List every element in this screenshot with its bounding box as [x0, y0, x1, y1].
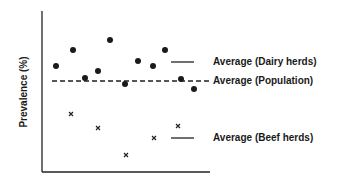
legend-dairy: Average (Dairy herds) [213, 56, 317, 67]
dairy-point [53, 63, 59, 69]
beef-point [69, 112, 73, 116]
dairy-point [162, 47, 168, 53]
beef-points [69, 112, 180, 157]
dairy-point [70, 47, 76, 53]
y-axis-label: Prevalence (%) [18, 56, 29, 127]
dairy-point [82, 75, 88, 81]
dairy-point [95, 68, 101, 74]
dairy-points [53, 37, 197, 92]
dairy-point [150, 63, 156, 69]
dairy-point [178, 76, 184, 82]
beef-point [152, 136, 156, 140]
dairy-point [191, 86, 197, 92]
dairy-point [135, 58, 141, 64]
beef-point [96, 126, 100, 130]
legend-beef: Average (Beef herds) [213, 132, 313, 143]
dairy-point [107, 37, 113, 43]
beef-point [176, 124, 180, 128]
legend-population: Average (Population) [213, 75, 313, 86]
chart: Prevalence (%) Average (Dairy herds) Ave… [0, 0, 337, 182]
dairy-point [122, 81, 128, 87]
beef-point [124, 153, 128, 157]
